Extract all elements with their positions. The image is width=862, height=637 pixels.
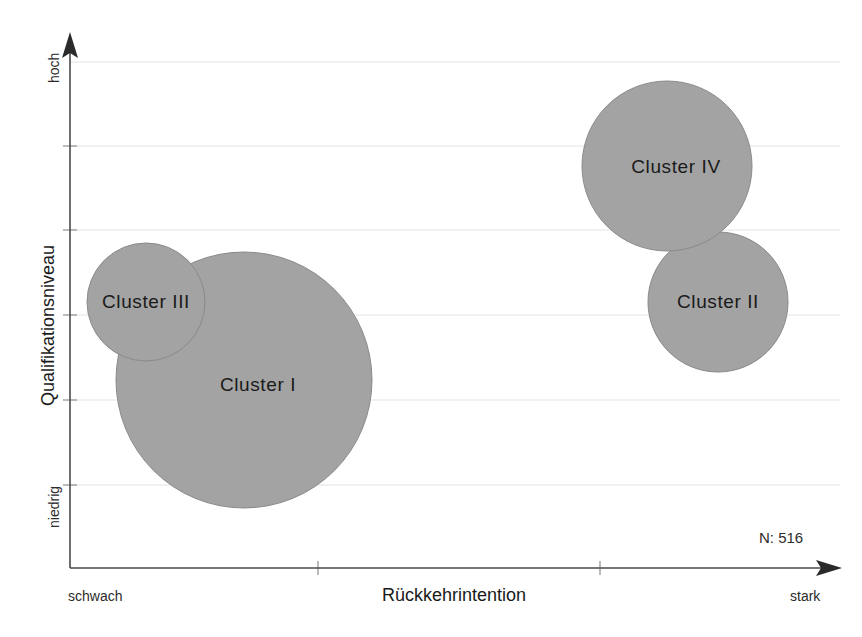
- bubble-label-cluster-iv: Cluster IV: [631, 156, 720, 177]
- x-axis-tick-label-weak: schwach: [68, 588, 122, 604]
- y-axis: [62, 32, 78, 568]
- x-axis: [70, 560, 842, 576]
- bubble-label-cluster-ii: Cluster II: [677, 291, 759, 312]
- bubble-group-cluster-iii[interactable]: Cluster III: [87, 243, 205, 361]
- bubble-group-cluster-ii[interactable]: Cluster II: [648, 232, 788, 372]
- bubble-group-cluster-iv[interactable]: Cluster IV: [582, 81, 752, 251]
- bubble-label-cluster-iii: Cluster III: [102, 291, 190, 312]
- x-axis-tick-label-strong: stark: [790, 588, 820, 604]
- y-axis-title: Qualifikationsniveau: [38, 245, 59, 406]
- bubble-label-cluster-i: Cluster I: [220, 374, 296, 395]
- x-axis-title: Rückkehrintention: [382, 585, 526, 606]
- y-axis-tick-label-low: niedrig: [46, 486, 62, 528]
- bubble-chart-figure: Cluster I Cluster III Cluster II Cluster…: [0, 0, 862, 637]
- sample-size-annotation: N: 516: [759, 529, 803, 546]
- chart-canvas: Cluster I Cluster III Cluster II Cluster…: [0, 0, 862, 637]
- y-axis-tick-label-high: hoch: [46, 53, 62, 83]
